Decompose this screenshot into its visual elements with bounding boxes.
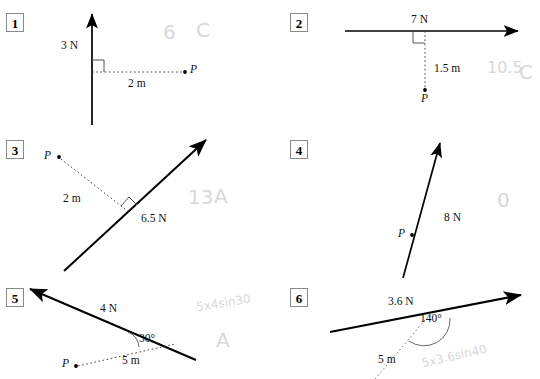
panel-4-answer-value: 0: [497, 190, 510, 210]
panel-number-5: 5: [6, 288, 24, 307]
panel-2-answer-letter: C: [519, 62, 533, 82]
panel-2-point-label: P: [421, 93, 428, 105]
panel-5-answer-letter: A: [216, 330, 230, 350]
panel-3-point-label: P: [44, 150, 51, 162]
panel-6-force-label: 3.6 N: [388, 296, 414, 308]
panel-5-distance-label: 5 m: [122, 355, 140, 367]
panel-number-3: 3: [6, 140, 24, 159]
panel-5-point-label: P: [62, 358, 69, 370]
panel-3-diagram: [57, 140, 206, 271]
panel-4-point-label: P: [398, 228, 405, 240]
panel-1-answer-value: 6: [163, 22, 176, 42]
worksheet-sheet: 1 2 3 4 5 6 3 N 2 m P 6 C 7 N 1.5 m P 10…: [0, 0, 540, 379]
force-arrow: [30, 289, 196, 360]
point-p-dot: [183, 70, 187, 74]
panel-number-4: 4: [290, 140, 308, 159]
panel-1-point-label: P: [190, 64, 197, 76]
right-angle-marker: [121, 197, 137, 206]
force-arrow: [64, 140, 206, 271]
panel-3-force-label: 6.5 N: [141, 213, 167, 225]
panel-number-6: 6: [290, 288, 308, 307]
panel-5-angle-label: 30°: [139, 333, 155, 345]
force-arrow: [403, 143, 440, 278]
panel-5-diagram: [30, 289, 196, 368]
right-angle-marker-2: [129, 197, 137, 205]
panel-number-2: 2: [290, 13, 308, 32]
point-p-dot: [74, 364, 78, 368]
panel-4-force-label: 8 N: [444, 212, 461, 224]
panel-number-1: 1: [6, 13, 24, 32]
panel-1-distance-label: 2 m: [128, 78, 146, 90]
panel-5-working: 5x4sin30: [195, 293, 251, 313]
panel-3-answer-value: 13: [188, 187, 213, 207]
right-angle-marker: [413, 31, 425, 43]
diagram-layer: [0, 0, 540, 379]
panel-3-distance-label: 2 m: [63, 193, 81, 205]
panel-2-answer-value: 10.5: [487, 60, 523, 76]
panel-1-force-label: 3 N: [61, 40, 78, 52]
point-p-dot: [57, 155, 61, 159]
panel-1-answer-letter: C: [196, 20, 210, 40]
distance-dashed-line: [375, 320, 425, 379]
point-p-dot: [410, 233, 414, 237]
panel-4-diagram: [403, 143, 440, 278]
panel-2-distance-label: 1.5 m: [434, 63, 460, 75]
panel-2-force-label: 7 N: [411, 14, 428, 26]
panel-5-force-label: 4 N: [100, 303, 117, 315]
panel-6-distance-label: 5 m: [378, 354, 396, 366]
panel-6-working: 5x3.6sin40: [420, 343, 487, 370]
panel-6-angle-label: 140°: [420, 313, 442, 325]
right-angle-marker: [92, 60, 104, 72]
angle-arc: [128, 332, 139, 347]
panel-3-answer-letter: A: [214, 186, 228, 206]
distance-dashed-line: [61, 159, 130, 213]
